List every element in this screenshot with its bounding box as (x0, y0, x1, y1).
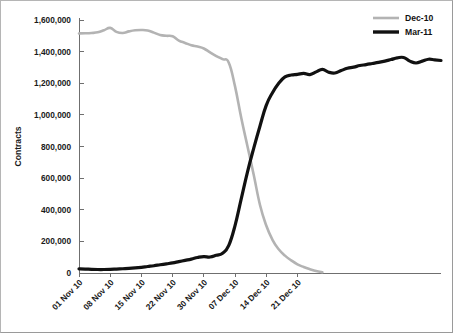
x-axis-tick-labels: 01 Nov 1008 Nov 1015 Nov 1022 Nov 1030 N… (50, 277, 303, 312)
y-tick-label: 1,400,000 (34, 47, 71, 57)
y-tick-label: 0 (66, 268, 71, 278)
y-tick-label: 800,000 (41, 142, 71, 152)
x-tick-label: 14 Dec 10 (238, 277, 272, 311)
x-tick-label: 08 Nov 10 (81, 277, 116, 312)
x-tick-label: 01 Nov 10 (50, 277, 85, 312)
y-tick-label: 1,000,000 (34, 110, 71, 120)
y-tick-label: 200,000 (41, 236, 71, 246)
line-chart: 0200,000400,000600,000800,0001,000,0001,… (1, 1, 453, 333)
chart-legend: Dec-10Mar-11 (373, 13, 433, 37)
y-axis-tick-marks (79, 20, 84, 273)
x-tick-label: 21 Dec 10 (269, 277, 303, 311)
y-axis-tick-labels: 0200,000400,000600,000800,0001,000,0001,… (34, 15, 71, 278)
y-tick-label: 1,200,000 (34, 78, 71, 88)
series-line-dec-10 (79, 28, 322, 272)
series-line-mar-11 (79, 57, 441, 269)
legend-label-mar-11: Mar-11 (405, 27, 432, 37)
y-tick-label: 400,000 (41, 205, 71, 215)
chart-figure: 0200,000400,000600,000800,0001,000,0001,… (0, 0, 453, 333)
x-axis-tick-marks (79, 273, 297, 277)
y-axis-title: Contracts (13, 126, 23, 166)
x-tick-label: 15 Nov 10 (112, 277, 147, 312)
x-tick-label: 22 Nov 10 (144, 277, 179, 312)
x-tick-label: 30 Nov 10 (175, 277, 210, 312)
y-tick-label: 600,000 (41, 173, 71, 183)
legend-label-dec-10: Dec-10 (405, 13, 433, 23)
data-series-group (79, 28, 441, 272)
x-tick-label: 07 Dec 10 (206, 277, 240, 311)
y-tick-label: 1,600,000 (34, 15, 71, 25)
